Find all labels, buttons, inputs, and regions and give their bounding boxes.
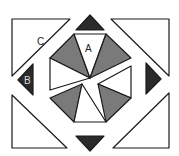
edge-triangle-top xyxy=(76,15,104,30)
label-c: C xyxy=(37,36,44,47)
edge-triangle-bottom xyxy=(76,136,104,151)
diagram-svg: C A B xyxy=(0,0,179,156)
label-a: A xyxy=(85,43,92,54)
label-b: B xyxy=(24,75,31,86)
puzzle-diagram: C A B xyxy=(0,0,179,156)
edge-triangle-right xyxy=(146,63,161,94)
